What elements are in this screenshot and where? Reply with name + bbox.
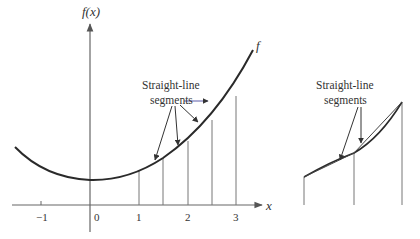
inset-chord-1 (304, 153, 354, 177)
main-callout-arrows (155, 101, 208, 160)
function-curve (15, 50, 253, 180)
main-callout-line1: Straight-line (142, 79, 200, 92)
main-axes (12, 24, 262, 232)
x-axis-label: x (265, 198, 272, 213)
svg-text:1: 1 (136, 211, 142, 223)
inset (304, 102, 402, 205)
svg-text:0: 0 (94, 211, 100, 223)
svg-text:−1: −1 (36, 211, 48, 223)
y-axis-label: f(x) (82, 4, 100, 19)
svg-text:3: 3 (233, 211, 239, 223)
inset-curve (304, 102, 402, 177)
svg-text:2: 2 (185, 211, 191, 223)
x-tick-labels: −1 0 1 2 3 (36, 211, 239, 223)
curve-label: f (256, 38, 262, 53)
diagram-canvas: f(x) x f −1 0 1 2 3 Straight-line segmen… (0, 0, 420, 239)
inset-callout-line1: Straight-line (316, 79, 374, 92)
main-callout-line2: segments (150, 94, 193, 107)
inset-callout-line2: segments (324, 94, 367, 107)
